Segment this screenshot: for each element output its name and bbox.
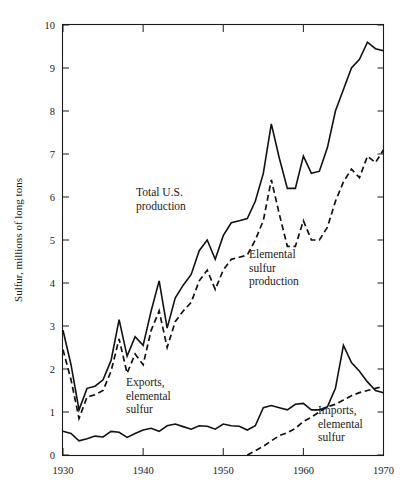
x-tick-label-1970: 1970: [373, 465, 394, 476]
annotation-0-line-1: production: [136, 200, 186, 213]
y-tick-label-5: 5: [50, 235, 55, 246]
annotation-1-line-0: Elemental: [249, 248, 296, 260]
y-tick-label-7: 7: [50, 149, 55, 160]
chart-canvas: 012345678910 19301940195019601970 Sulfur…: [0, 0, 408, 495]
annotation-2-line-2: sulfur: [126, 403, 153, 415]
annotation-3-line-2: sulfur: [318, 431, 345, 443]
x-tick-label-1950: 1950: [213, 465, 234, 476]
y-tick-label-4: 4: [50, 278, 56, 289]
annotation-2-line-1: elemental: [126, 390, 171, 402]
annotation-3-line-1: elemental: [318, 418, 363, 430]
y-tick-label-0: 0: [50, 450, 55, 461]
y-tick-label-6: 6: [50, 192, 55, 203]
x-tick-label-1940: 1940: [133, 465, 154, 476]
x-tick-label-1960: 1960: [293, 465, 314, 476]
annotation-0-line-0: Total U.S.: [136, 186, 183, 198]
y-tick-label-9: 9: [50, 63, 55, 74]
annotation-2-line-0: Exports,: [126, 376, 165, 389]
y-tick-label-3: 3: [50, 321, 55, 332]
sulfur-production-chart: 012345678910 19301940195019601970 Sulfur…: [0, 0, 408, 495]
y-tick-label-10: 10: [45, 20, 56, 31]
x-tick-label-1930: 1930: [53, 465, 74, 476]
y-tick-label-8: 8: [50, 106, 55, 117]
annotation-1-line-2: production: [249, 275, 299, 288]
annotation-3-line-0: Imports,: [318, 404, 357, 417]
annotation-1-line-1: sulfur: [249, 262, 276, 274]
y-tick-label-2: 2: [50, 364, 55, 375]
y-axis-title: Sulfur, millions of long tons: [12, 178, 24, 302]
y-tick-label-1: 1: [50, 407, 55, 418]
annotation-0: Total U.S.production: [136, 186, 186, 213]
